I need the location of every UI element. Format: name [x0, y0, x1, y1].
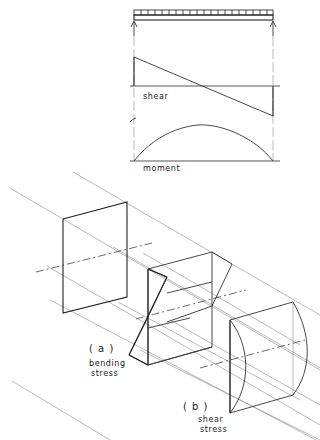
- section-b-caption-1: shear: [198, 415, 223, 424]
- isometric-guide-lines: [10, 172, 320, 440]
- section-b-label: ( b ): [183, 401, 209, 412]
- section-plain: [36, 202, 152, 313]
- section-a-bending: ( a ) bending stress: [89, 252, 246, 378]
- break-mark: [130, 118, 136, 122]
- shear-label: shear: [143, 92, 168, 101]
- section-b-caption-2: stress: [200, 425, 227, 434]
- right-reaction-arrow-icon: [270, 21, 276, 36]
- beam-with-distributed-load: [134, 10, 273, 20]
- beam-stress-diagram: shear moment: [0, 0, 320, 440]
- moment-label: moment: [143, 164, 180, 173]
- section-b-shear: ( b ) shear stress: [183, 302, 307, 434]
- section-a-caption-1: bending: [89, 359, 126, 368]
- section-a-caption-2: stress: [91, 369, 118, 378]
- moment-diagram: moment: [130, 125, 280, 173]
- shear-diagram: shear: [130, 57, 280, 116]
- left-reaction-arrow-icon: [131, 21, 137, 36]
- section-a-label: ( a ): [89, 343, 114, 354]
